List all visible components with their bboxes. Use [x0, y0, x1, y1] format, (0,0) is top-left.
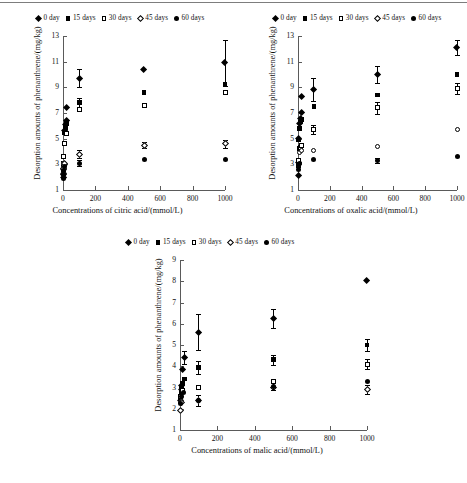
marker-filled-diamond [195, 329, 202, 336]
marker-filled-circle [142, 157, 147, 162]
x-tick [330, 186, 331, 190]
marker-filled-circle [196, 398, 201, 403]
error-bar-cap [365, 369, 370, 370]
x-axis-line [298, 190, 457, 191]
y-axis-title-text: Desorption amounts of phenanthrene/(mg/k… [154, 250, 164, 420]
x-tick-label: 800 [177, 194, 209, 203]
error-bar-cap [455, 94, 460, 95]
error-bar-cap [311, 125, 316, 126]
x-tick-label: 400 [346, 194, 378, 203]
open-diamond-icon [227, 239, 234, 246]
y-tick [180, 324, 184, 325]
legend-label: 30 days [109, 14, 132, 22]
filled-square-icon [156, 240, 161, 245]
x-tick-label: 600 [144, 194, 176, 203]
x-tick-label: 1000 [441, 194, 467, 203]
x-tick [292, 426, 293, 430]
marker-filled-circle [455, 154, 460, 159]
error-bar-cap [196, 361, 201, 362]
marker-filled-square [312, 104, 317, 109]
legend-label: 0 day [281, 14, 297, 22]
marker-filled-diamond [310, 86, 317, 93]
marker-filled-diamond [63, 104, 70, 111]
legend-item-60-days: 60 days [411, 14, 441, 22]
legend-citric: 0 day15 days30 days45 days60 days [36, 14, 204, 22]
x-tick [128, 186, 129, 190]
marker-open-diamond [76, 151, 83, 158]
x-tick-label: 400 [239, 434, 271, 443]
y-tick [298, 36, 302, 37]
legend-label: 0 day [44, 14, 60, 22]
x-tick-label: 200 [79, 194, 111, 203]
filled-diamond-icon [35, 15, 42, 22]
error-bar-cap [77, 87, 82, 88]
error-bar-cap [271, 390, 276, 391]
plot-area-citric: 13579111302004006008001000Concentrations… [0, 26, 235, 230]
legend-item-30-days: 30 days [339, 14, 369, 22]
marker-open-square [62, 141, 67, 146]
legend-label: 15 days [310, 14, 333, 22]
x-tick-label: 0 [47, 194, 79, 203]
error-bar-cap [77, 98, 82, 99]
marker-filled-square [64, 121, 69, 126]
marker-filled-square [142, 90, 147, 95]
marker-open-square [299, 143, 304, 148]
legend-item-0-day: 0 day [36, 14, 60, 22]
y-tick [63, 36, 67, 37]
legend-label: 15 days [163, 238, 186, 246]
error-bar-cap [365, 394, 370, 395]
open-square-icon [192, 240, 197, 245]
x-tick [330, 426, 331, 430]
legend-label: 60 days [419, 14, 442, 22]
x-tick-label: 800 [409, 194, 441, 203]
x-axis-title: Concentrations of malic acid/(mmol/L) [112, 446, 402, 455]
marker-filled-diamond [180, 354, 187, 361]
x-tick [367, 426, 368, 430]
x-tick [160, 186, 161, 190]
plot-area-oxalic: 13579111302004006008001000Concentrations… [235, 26, 467, 230]
marker-filled-square [77, 100, 82, 105]
x-tick-label: 200 [201, 434, 233, 443]
marker-open-square [196, 385, 201, 390]
marker-filled-square [196, 365, 201, 370]
error-bar-cap [182, 364, 187, 365]
error-bar-cap [455, 40, 460, 41]
legend-item-0-day: 0 day [126, 238, 150, 246]
marker-open-diamond [221, 140, 228, 147]
legend-item-45-days: 45 days [138, 14, 168, 22]
x-tick [193, 186, 194, 190]
error-bar-cap [455, 83, 460, 84]
y-tick [180, 430, 184, 431]
error-bar-cap [311, 101, 316, 102]
error-bar-cap [196, 374, 201, 375]
x-axis-title: Concentrations of oxalic acid/(mmol/L) [235, 206, 467, 215]
marker-filled-square [271, 357, 276, 362]
marker-open-square [365, 362, 370, 367]
legend-malic: 0 day15 days30 days45 days60 days [126, 238, 294, 246]
marker-filled-square [223, 82, 228, 87]
error-bar-cap [271, 309, 276, 310]
error-bar-cap [271, 355, 276, 356]
filled-square-icon [303, 16, 308, 21]
error-bar-cap [271, 328, 276, 329]
y-tick-label: 1 [156, 425, 176, 434]
y-tick [298, 87, 302, 88]
legend-item-15-days: 15 days [156, 238, 186, 246]
y-tick-label: 1 [39, 185, 59, 194]
x-tick [180, 426, 181, 430]
plot-area-malic: 12345678902004006008001000Concentrations… [112, 250, 402, 483]
error-bar-cap [365, 339, 370, 340]
y-tick [298, 62, 302, 63]
open-diamond-icon [374, 15, 381, 22]
marker-open-circle [311, 148, 316, 153]
x-tick [217, 426, 218, 430]
marker-open-circle [299, 148, 304, 153]
error-bar-cap [271, 365, 276, 366]
x-tick-label: 1000 [351, 434, 383, 443]
marker-open-circle [455, 127, 460, 132]
marker-filled-circle [178, 401, 183, 406]
legend-label: 30 days [199, 238, 222, 246]
x-tick-label: 600 [377, 194, 409, 203]
y-tick [180, 303, 184, 304]
x-tick-label: 200 [314, 194, 346, 203]
